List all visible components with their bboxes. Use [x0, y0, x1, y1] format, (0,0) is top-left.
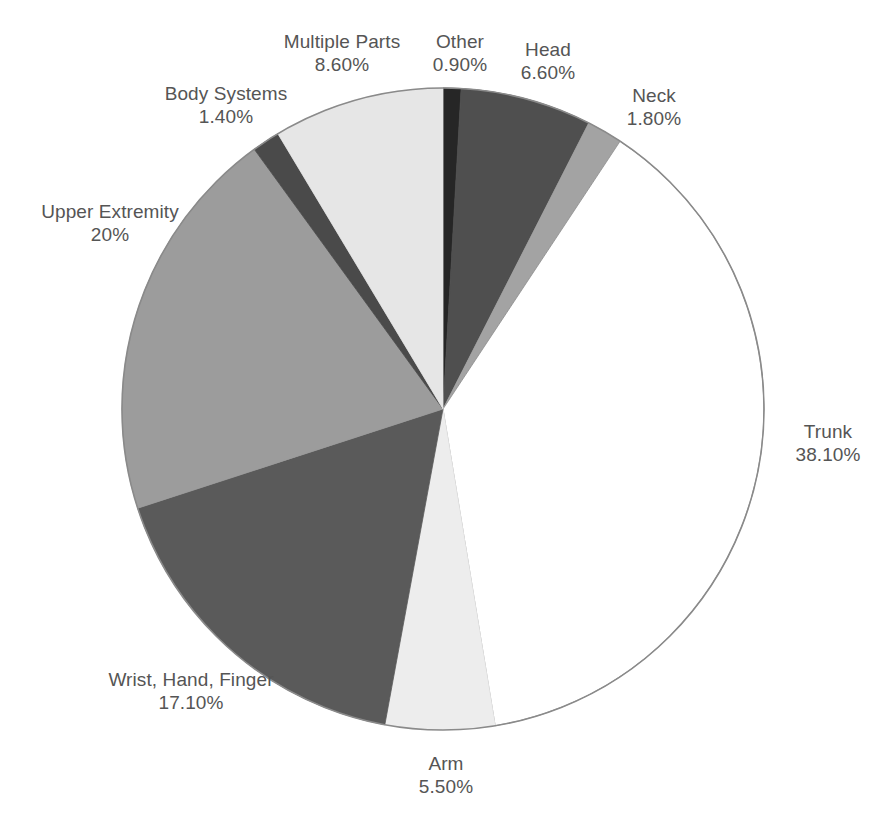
slice-label-name: Arm — [398, 752, 494, 775]
slice-label-value: 1.80% — [602, 107, 706, 130]
slice-label-value: 1.40% — [152, 105, 300, 128]
slice-label-head: Head 6.60% — [500, 38, 596, 84]
slice-label-name: Upper Extremity — [22, 200, 198, 223]
pie-chart: Multiple Parts 8.60% Other 0.90% Head 6.… — [0, 0, 878, 817]
slice-label-value: 8.60% — [262, 53, 422, 76]
slice-label-other: Other 0.90% — [412, 30, 508, 76]
slice-label-value: 5.50% — [398, 775, 494, 798]
slice-label-name: Head — [500, 38, 596, 61]
slice-label-value: 6.60% — [500, 61, 596, 84]
slice-label-name: Multiple Parts — [262, 30, 422, 53]
slice-label-neck: Neck 1.80% — [602, 84, 706, 130]
slice-label-name: Other — [412, 30, 508, 53]
slice-label-upper-extremity: Upper Extremity 20% — [22, 200, 198, 246]
slice-label-name: Body Systems — [152, 82, 300, 105]
slice-label-value: 20% — [22, 223, 198, 246]
slice-label-arm: Arm 5.50% — [398, 752, 494, 798]
slice-label-value: 17.10% — [85, 691, 297, 714]
slice-label-trunk: Trunk 38.10% — [782, 420, 874, 466]
slice-label-wrist-hand-finger: Wrist, Hand, Finger 17.10% — [85, 668, 297, 714]
slice-label-value: 38.10% — [782, 443, 874, 466]
slice-label-name: Neck — [602, 84, 706, 107]
slice-label-name: Trunk — [782, 420, 874, 443]
slice-label-value: 0.90% — [412, 53, 508, 76]
slice-label-name: Wrist, Hand, Finger — [85, 668, 297, 691]
slice-label-body-systems: Body Systems 1.40% — [152, 82, 300, 128]
slice-label-multiple-parts: Multiple Parts 8.60% — [262, 30, 422, 76]
pie-slice-group — [122, 88, 764, 730]
